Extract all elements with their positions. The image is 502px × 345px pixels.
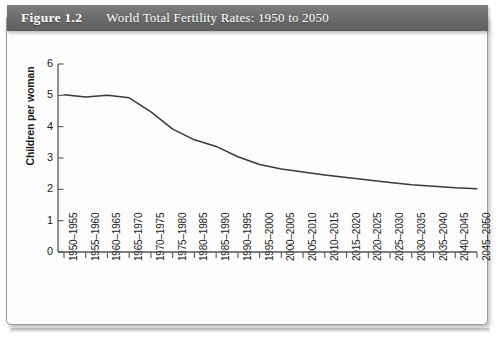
fertility-rate-line [64, 95, 477, 189]
fertility-line-chart [7, 15, 502, 345]
plot-area: Children per woman 0123456 1950–19551955… [7, 15, 502, 345]
y-axis-ticks [58, 64, 64, 252]
figure-title: World Total Fertility Rates: 1950 to 205… [106, 10, 329, 26]
axes [58, 64, 477, 252]
x-axis-ticks [64, 253, 477, 259]
figure-card: Children per woman 0123456 1950–19551955… [6, 14, 488, 325]
figure-number: Figure 1.2 [21, 10, 82, 26]
figure-header-bar: Figure 1.2 World Total Fertility Rates: … [7, 5, 488, 31]
